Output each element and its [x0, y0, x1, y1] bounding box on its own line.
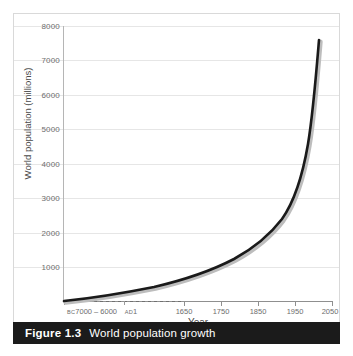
- x-tick-label-1850: 1850: [250, 307, 267, 316]
- population-curve: [14, 14, 339, 307]
- chart-plot-panel: 8000 7000 6000 5000 4000 3000 2000 1000 …: [14, 14, 339, 307]
- x-tick-label-ad-year: 1: [133, 307, 137, 316]
- x-tick-label-bc-years: 7000 – 6000: [75, 307, 117, 316]
- x-tick-label-1650: 1650: [176, 307, 193, 316]
- figure-caption-title: World population growth: [89, 327, 215, 339]
- figure-caption-number: Figure 1.3: [25, 327, 81, 339]
- x-tick-label-2050: 2050: [322, 307, 339, 316]
- figure-container: 8000 7000 6000 5000 4000 3000 2000 1000 …: [0, 0, 353, 356]
- x-tick-label-ad1: AD1: [125, 307, 138, 316]
- figure-caption-bar: Figure 1.3 World population growth: [13, 322, 340, 344]
- x-tick-label-bc7000-6000: BC7000 – 6000: [67, 307, 117, 316]
- x-tick-label-1950: 1950: [287, 307, 304, 316]
- population-curve-line: [64, 40, 319, 301]
- x-tick-label-1750: 1750: [213, 307, 230, 316]
- population-curve-shadow: [66, 42, 321, 303]
